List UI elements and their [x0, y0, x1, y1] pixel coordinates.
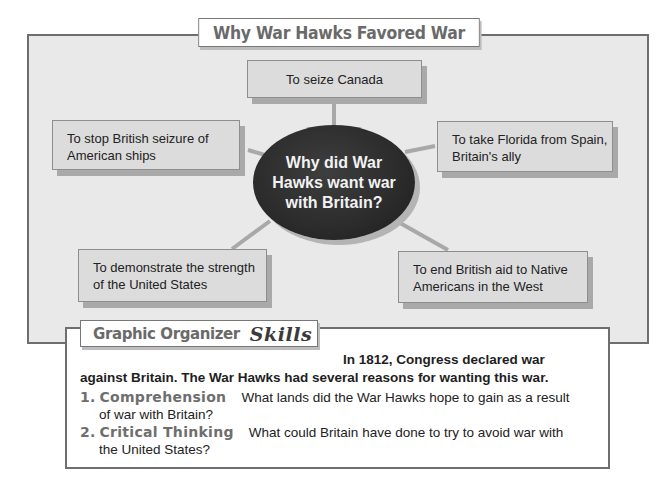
- question-number: 2.: [80, 424, 96, 440]
- central-question-hub: Why did War Hawks want war with Britain?: [253, 125, 415, 240]
- question-text-continued: of war with Britain?: [80, 406, 570, 423]
- node-text: To take Florida from Spain, Britain's al…: [452, 131, 617, 165]
- question-critical-thinking: 2. Critical Thinking What could Britain …: [80, 424, 563, 458]
- question-heading: Comprehension: [99, 389, 226, 405]
- question-text: What lands did the War Hawks hope to gai…: [241, 390, 569, 405]
- skills-intro-line1: In 1812, Congress declared war: [343, 352, 545, 367]
- diagram-title: Why War Hawks Favored War: [198, 18, 480, 47]
- skills-header-label: Graphic Organizer: [93, 325, 240, 343]
- hub-text: Why did War Hawks want war with Britain?: [269, 153, 399, 213]
- node-seize-canada: To seize Canada: [247, 60, 422, 98]
- node-text: To seize Canada: [286, 71, 383, 88]
- node-end-native-aid: To end British aid to Native Americans i…: [398, 251, 588, 303]
- node-text: To end British aid to Native Americans i…: [413, 261, 583, 295]
- skills-header-script: Skills: [250, 323, 312, 345]
- question-comprehension: 1. Comprehension What lands did the War …: [80, 389, 570, 423]
- question-text-continued: the United States?: [80, 441, 563, 458]
- node-text: To stop British seizure of American ship…: [67, 130, 217, 164]
- question-heading: Critical Thinking: [99, 424, 233, 440]
- node-demonstrate-strength: To demonstrate the strength of the Unite…: [78, 249, 267, 302]
- question-number: 1.: [80, 389, 96, 405]
- node-text: To demonstrate the strength of the Unite…: [93, 259, 268, 293]
- question-text: What could Britain have done to try to a…: [249, 425, 563, 440]
- node-take-florida: To take Florida from Spain, Britain's al…: [437, 121, 613, 172]
- skills-intro-line2: against Britain. The War Hawks had sever…: [80, 370, 548, 385]
- node-stop-ship-seizure: To stop British seizure of American ship…: [52, 120, 240, 170]
- skills-header-tab: Graphic Organizer Skills: [80, 320, 318, 347]
